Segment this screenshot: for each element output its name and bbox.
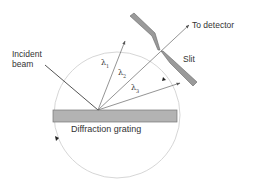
lambda-subscript: 2 [123, 73, 126, 79]
lambda3-label: λ3 [131, 83, 139, 94]
incident-beam-label: Incident beam [12, 49, 42, 69]
lambda-subscript: 3 [136, 88, 139, 94]
rotation-arrow-icon [162, 77, 166, 81]
slit-label: Slit [183, 54, 195, 64]
rotation-arrow-icon [55, 136, 59, 141]
diffraction-grating-diagram: Incident beam To detector Slit Diffracti… [0, 0, 263, 190]
slit-upper-blade [130, 13, 160, 50]
incident-label-line1: Incident [12, 49, 42, 59]
incident-label-line2: beam [12, 59, 42, 69]
lambda2-label: λ2 [118, 68, 126, 79]
grating-label: Diffraction grating [71, 124, 141, 134]
diffraction-grating [53, 110, 177, 122]
lambda1-label: λ1 [101, 58, 109, 69]
to-detector-label: To detector [192, 20, 234, 30]
lambda-subscript: 1 [106, 63, 109, 69]
